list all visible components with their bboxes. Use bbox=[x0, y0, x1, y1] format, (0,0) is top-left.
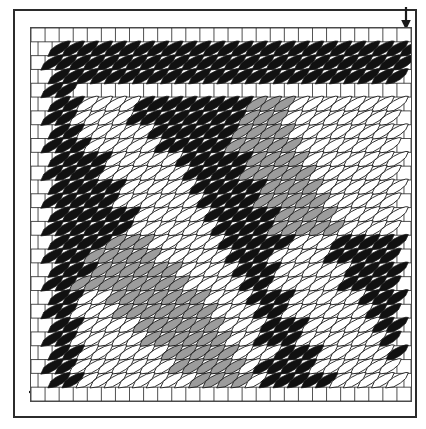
stitch-chart-root: Knitting Stitch Pattern Chart bbox=[0, 0, 426, 429]
stitch-symbols bbox=[41, 41, 411, 388]
stitch-grid-svg bbox=[31, 28, 411, 401]
stitch-grid bbox=[30, 27, 412, 402]
